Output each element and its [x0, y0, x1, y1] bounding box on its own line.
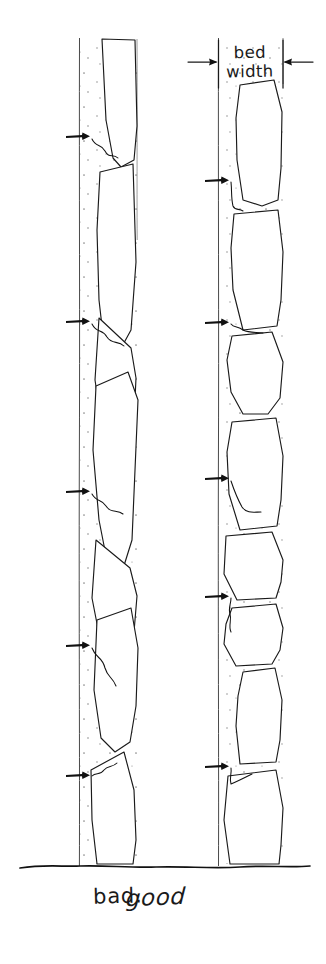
- left-stone-6: [94, 608, 138, 752]
- right-stone-1: [236, 80, 282, 206]
- right-stone-4: [227, 418, 283, 530]
- right-stone-6: [224, 604, 283, 666]
- bed-width-label-line2: width: [226, 62, 274, 82]
- right-stone-7: [236, 668, 282, 764]
- drystone-wall-diagram: bed width bad. good: [0, 0, 326, 964]
- right-column-caption: good: [125, 883, 186, 912]
- right-stone-5: [224, 532, 283, 600]
- bed-width-label-line1: bed: [234, 43, 267, 63]
- right-stone-8: [224, 770, 283, 864]
- right-stone-2: [231, 210, 283, 330]
